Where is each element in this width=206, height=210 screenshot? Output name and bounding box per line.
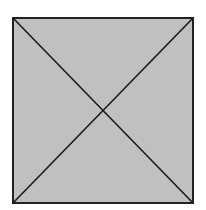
diagram-canvas <box>0 0 206 210</box>
